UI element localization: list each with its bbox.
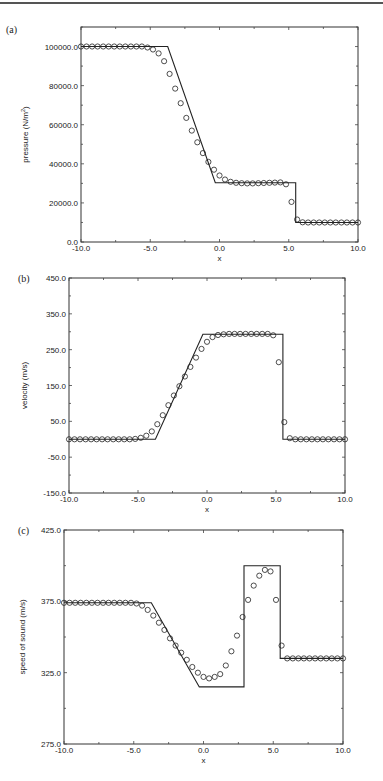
speed-of-sound-chart: -10.0-5.00.05.010.0275.0325.0375.0425.0x… <box>0 0 383 781</box>
plot-frame <box>64 530 343 744</box>
data-point-circle <box>184 657 189 662</box>
data-point-circle <box>257 573 262 578</box>
data-point-circle <box>140 603 145 608</box>
data-point-circle <box>134 601 139 606</box>
numerical-markers <box>61 567 345 681</box>
y-tick-label: 325.0 <box>41 669 62 678</box>
data-point-circle <box>234 633 239 638</box>
data-point-circle <box>251 583 256 588</box>
x-tick-label: 0.0 <box>198 746 210 755</box>
data-point-circle <box>201 674 206 679</box>
panel-label: (c) <box>18 525 29 537</box>
data-point-circle <box>190 664 195 669</box>
x-tick-label: 5.0 <box>268 746 280 755</box>
data-point-circle <box>212 674 217 679</box>
exact-solution-line <box>64 566 343 687</box>
data-point-circle <box>262 567 267 572</box>
data-point-circle <box>207 676 212 681</box>
data-point-circle <box>218 672 223 677</box>
y-axis-title: speed of sound (m/s) <box>18 599 27 674</box>
x-tick-label: -5.0 <box>127 746 141 755</box>
x-tick-label: 10.0 <box>335 746 351 755</box>
y-tick-label: 375.0 <box>41 597 62 606</box>
data-point-circle <box>223 663 228 668</box>
data-point-circle <box>246 597 251 602</box>
data-point-circle <box>145 607 150 612</box>
data-point-circle <box>273 597 278 602</box>
y-tick-label: 425.0 <box>41 526 62 535</box>
data-point-circle <box>229 649 234 654</box>
plot-area: -10.0-5.00.05.010.0275.0325.0375.0425.0x… <box>18 525 351 765</box>
x-axis-title: x <box>202 756 206 765</box>
data-point-circle <box>156 620 161 625</box>
y-tick-label: 275.0 <box>41 740 62 749</box>
data-point-circle <box>151 613 156 618</box>
data-point-circle <box>268 569 273 574</box>
data-point-circle <box>195 670 200 675</box>
